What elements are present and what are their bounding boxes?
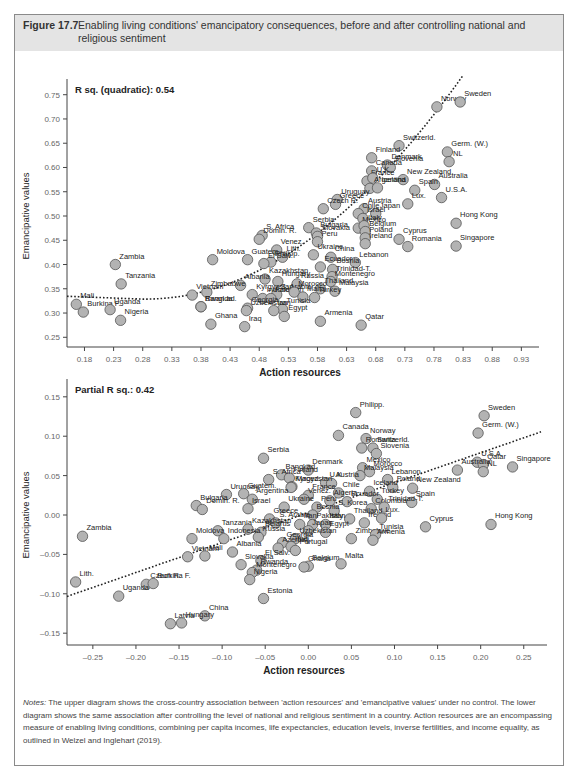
y-tick-label: –0.10 (40, 590, 61, 599)
point-marker (290, 545, 300, 555)
point-marker (444, 156, 454, 166)
point-label: Mali (209, 543, 223, 552)
point-label: Philipp. (360, 400, 385, 409)
point-label: Poland (397, 474, 420, 483)
y-tick-label: 0.00 (44, 511, 60, 520)
data-point: Estonia (258, 586, 293, 604)
data-point: Rwanda (196, 294, 234, 312)
point-marker (70, 577, 80, 587)
point-label: Malaysia (339, 278, 369, 287)
y-tick-label: 0.60 (44, 163, 60, 172)
point-marker (114, 591, 124, 601)
point-marker (269, 305, 279, 315)
y-tick-label: 0.25 (44, 333, 60, 342)
point-marker (196, 302, 206, 312)
data-point: Iraq (239, 314, 261, 332)
y-tick-label: 0.75 (44, 91, 60, 100)
y-tick-label: 0.10 (44, 432, 60, 441)
point-label: U.K. (377, 165, 392, 174)
point-marker (243, 503, 253, 513)
point-label: Vietnam (196, 282, 223, 291)
y-axis-label: Emancipative values (20, 471, 31, 558)
point-label: Portugal (299, 537, 327, 546)
point-label: Qatar (365, 312, 384, 321)
point-label: Iceland (381, 175, 405, 184)
data-point: Armenia (315, 308, 353, 326)
data-point: Serbia (258, 445, 290, 463)
x-tick-label: 0.88 (484, 355, 500, 364)
x-tick-label: 0.15 (430, 653, 446, 662)
point-marker (486, 519, 496, 529)
x-tick-label: 0.05 (344, 653, 360, 662)
x-tick-label: 0.25 (516, 653, 532, 662)
point-marker (455, 97, 465, 107)
point-marker (227, 547, 237, 557)
point-label: Iraq (249, 314, 262, 323)
figure-header: Figure 17.7 Enabling living conditions' … (15, 15, 563, 51)
point-label: Nigeria (254, 567, 279, 576)
point-marker (105, 304, 115, 314)
data-point: Ghana (299, 554, 332, 572)
data-point: Zambia (110, 252, 145, 270)
point-marker (242, 254, 252, 264)
point-label: Peru (321, 229, 337, 238)
y-tick-label: 0.55 (44, 188, 60, 197)
point-marker (372, 183, 382, 193)
x-tick-label: 0.48 (251, 355, 267, 364)
point-label: Malta (307, 284, 326, 293)
point-label: Lux. (412, 191, 426, 200)
point-label: Indonesia (228, 526, 261, 535)
point-marker (254, 234, 264, 244)
point-marker (187, 533, 197, 543)
point-marker (436, 192, 446, 202)
point-label: Lux. (386, 505, 400, 514)
r-squared-annotation: R sq. (quadratic): 0.54 (75, 84, 175, 95)
point-label: Singapore (517, 454, 551, 463)
y-tick-label: 0.05 (44, 472, 60, 481)
point-label: Hong Kong (460, 210, 498, 219)
data-point: Singapore (507, 454, 550, 472)
point-label: Moldova (196, 526, 225, 535)
point-marker (308, 250, 318, 260)
point-marker (432, 102, 442, 112)
figure-notes: Notes: The upper diagram shows the cross… (23, 697, 555, 747)
point-marker (239, 321, 249, 331)
point-label: Malaysia (364, 463, 394, 472)
x-tick-label: 0.23 (106, 355, 122, 364)
point-label: Australia (439, 171, 469, 180)
x-tick-label: 0.53 (281, 355, 297, 364)
point-label: Hong Kong (495, 511, 533, 520)
data-point: Tanzania (116, 271, 156, 289)
x-tick-label: 0.38 (193, 355, 209, 364)
data-point: Singapore (451, 233, 494, 251)
point-label: China (335, 244, 355, 253)
point-marker (259, 258, 269, 268)
data-point: Hong Kong (486, 511, 533, 529)
point-label: Ukraine (288, 494, 314, 503)
x-tick-label: 0.63 (339, 355, 355, 364)
point-marker (258, 453, 268, 463)
point-marker (351, 407, 361, 417)
point-label: Trinidad-T. (388, 494, 423, 503)
point-label: Tanzania (125, 271, 156, 280)
point-label: Bosnia (317, 502, 341, 511)
y-tick-label: 0.35 (44, 285, 60, 294)
y-tick-label: 0.70 (44, 115, 60, 124)
point-label: Burkina F. (157, 571, 190, 580)
point-label: NL (453, 149, 463, 158)
point-marker (165, 619, 175, 629)
figure-frame: Figure 17.7 Enabling living conditions' … (14, 14, 564, 766)
point-marker (403, 241, 413, 251)
y-axis-label: Emancipative values (20, 172, 31, 259)
point-label: Singapore (460, 233, 494, 242)
x-tick-label: 0.18 (77, 355, 93, 364)
point-marker (356, 320, 366, 330)
x-tick-label: 0.43 (222, 355, 238, 364)
point-marker (309, 292, 319, 302)
point-label: Australia (461, 457, 491, 466)
point-label: New Zealand (417, 475, 461, 484)
point-marker (507, 462, 517, 472)
point-marker (110, 259, 120, 269)
x-tick-label: 0.33 (164, 355, 180, 364)
point-marker (299, 562, 309, 572)
